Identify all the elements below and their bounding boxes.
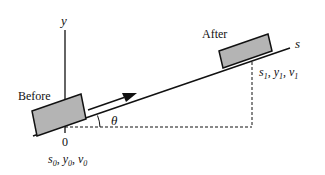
before-label: Before <box>18 89 51 103</box>
inclined-plane-diagram: y s θ Before 0 s0, y0, v0 After s1, y1, … <box>0 0 325 175</box>
after-state-label: s1, y1, v1 <box>259 65 298 81</box>
before-state-label: s0, y0, v0 <box>48 152 87 168</box>
y-axis-label: y <box>59 13 67 28</box>
s-axis-label: s <box>295 36 300 51</box>
origin-label: 0 <box>62 135 68 149</box>
angle-arc <box>98 116 101 128</box>
after-label: After <box>202 27 227 41</box>
motion-arrow-shaft <box>88 98 124 111</box>
angle-label: θ <box>111 113 118 128</box>
